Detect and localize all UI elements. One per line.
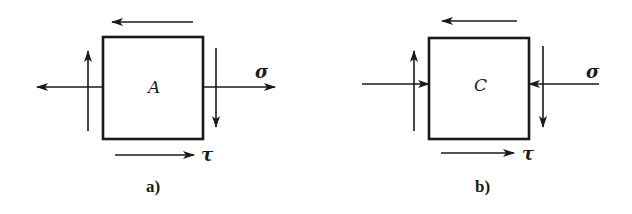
sigma-label-b: σ <box>586 61 600 82</box>
tau-label-b: τ <box>522 143 535 164</box>
caption-a: a) <box>146 177 160 196</box>
element-label-a: A <box>146 77 160 97</box>
sigma-label-a: σ <box>255 61 269 82</box>
figure-canvas: A σ τ a) C σ τ b) <box>0 0 632 214</box>
panel-a: A σ τ a) <box>37 22 275 196</box>
tau-label-a: τ <box>201 144 214 165</box>
caption-b: b) <box>475 177 490 196</box>
element-label-b: C <box>474 75 487 95</box>
panel-b: C σ τ b) <box>362 21 600 196</box>
